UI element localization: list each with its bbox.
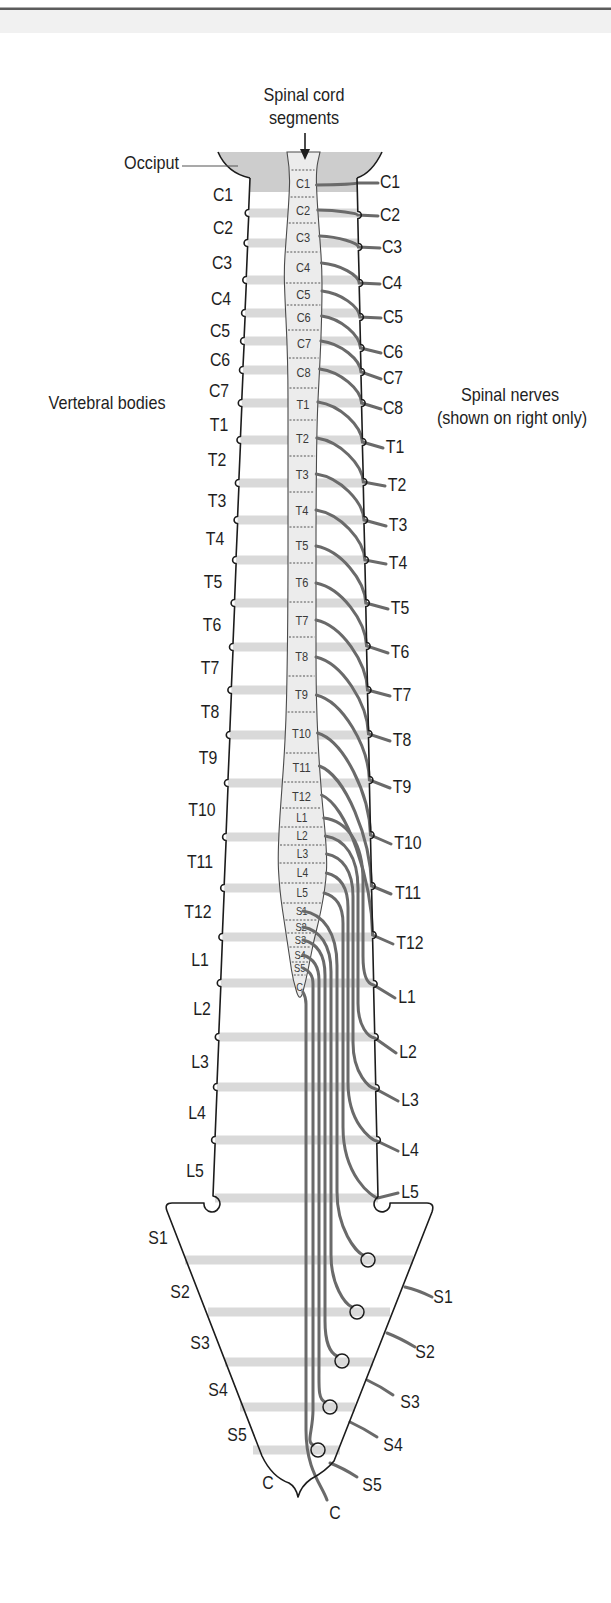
vertebral-body-label: T6 [203, 616, 221, 636]
sacral-fusion-band [225, 1358, 373, 1367]
cord-segment-label: T11 [292, 760, 310, 775]
spinal-nerve-label: C8 [383, 399, 403, 419]
vertebral-body-label: T1 [210, 416, 228, 436]
header-shade [0, 10, 611, 33]
cord-segment-label: T10 [292, 726, 311, 741]
cord-segment-label: T1 [296, 397, 309, 412]
cord-segment-label: T4 [296, 503, 309, 518]
cord-segment-label: L3 [297, 848, 308, 861]
vertebral-body-label: C4 [211, 290, 231, 310]
occiput-label: Occiput [124, 154, 179, 174]
cord-segment-label: C8 [297, 365, 311, 380]
sacral-vertebra-label: C [262, 1474, 273, 1494]
spinal-nerve-label: C1 [380, 173, 400, 193]
spinal-nerve-label: T7 [393, 686, 411, 706]
spinal-nerve-label: L4 [401, 1141, 419, 1161]
vertebral-body-label: C6 [210, 351, 230, 371]
spinal-nerve-label: C2 [380, 206, 400, 226]
sacral-fusion-band [215, 1194, 378, 1203]
spinal-nerve-label: C3 [382, 238, 402, 258]
vertebral-body-label: C3 [212, 254, 232, 274]
vertebral-body-label: L4 [188, 1104, 206, 1124]
cord-segment-label: L1 [296, 812, 307, 825]
spinal-nerves-label: Spinal nerves [461, 386, 559, 406]
spinal-nerve-label: T3 [389, 516, 407, 536]
sacral-ramus-s3 [367, 1380, 393, 1395]
vertebral-body-label: T10 [188, 801, 215, 821]
cord-segment-label: C7 [297, 336, 311, 351]
cord-segment-label: C6 [297, 310, 311, 325]
page-header-rule [0, 8, 611, 34]
sacral-ramus-s1 [405, 1287, 432, 1297]
spinal-nerve-label: S5 [362, 1476, 381, 1496]
vertebral-body-label: C5 [210, 322, 230, 342]
vertebral-body-label: L1 [191, 951, 209, 971]
cord-segment-label: T3 [296, 467, 309, 482]
spinal-nerve-c6 [322, 316, 381, 353]
cord-segment-label: T6 [296, 575, 309, 590]
sacral-ramus-s2 [387, 1333, 415, 1347]
sacral-vertebra-label: S1 [148, 1229, 167, 1249]
spinal-nerve-label: T10 [394, 834, 421, 854]
header-rule-line [0, 8, 611, 11]
spinal-nerves-note: (shown on right only) [437, 409, 587, 429]
vertebral-body-label: T7 [201, 659, 219, 679]
cord-segment-label: C2 [296, 203, 310, 218]
coccygeal-nerve [303, 992, 327, 1500]
cord-segment-label: T2 [296, 431, 309, 446]
sacral-ramus-s5 [330, 1463, 357, 1477]
sacral-fusion-band [253, 1446, 340, 1455]
spinal-nerve-label: C7 [383, 369, 403, 389]
vertebral-body-label: L5 [186, 1162, 204, 1182]
sacral-vertebra-label: S3 [190, 1334, 209, 1354]
vertebral-body-label: T11 [187, 853, 213, 873]
spinal-nerve-t7 [316, 620, 390, 696]
spinal-nerve-label: L5 [401, 1183, 419, 1203]
spinal-nerve-label: T8 [393, 731, 411, 751]
vertebral-body-label: T3 [208, 492, 226, 512]
vertebral-body-label: T5 [204, 573, 222, 593]
vertebral-body-label: L2 [193, 1000, 211, 1020]
spinal-nerve-label: S4 [383, 1436, 402, 1456]
cord-segment-label: L2 [296, 830, 307, 843]
sacral-vertebra-label: S4 [208, 1381, 227, 1401]
spinal-nerve-label: L1 [398, 988, 416, 1008]
cord-segment-label: T9 [295, 687, 308, 702]
cord-segment-label: T12 [292, 789, 311, 804]
vertebral-body-label: L3 [191, 1053, 209, 1073]
vertebral-body-label: T8 [201, 703, 219, 723]
cord-segment-label: T7 [295, 613, 308, 628]
vertebral-body-label: T9 [199, 749, 217, 769]
vertebral-body-label: C1 [213, 186, 233, 206]
figure-page: C1C2C3C4C5C6C7C8T1T2T3T4T5T6T7T8T9T10T11… [0, 0, 611, 1603]
vertebral-body-label: C2 [213, 219, 233, 239]
intervertebral-disc [219, 1033, 375, 1042]
spinal-nerve-label: L3 [401, 1091, 419, 1111]
spinal-nerve-label: C6 [383, 343, 403, 363]
cord-segment-label: L5 [297, 887, 308, 900]
sacral-ramus-s4 [350, 1422, 377, 1437]
spinal-nerve-label: T5 [391, 599, 409, 619]
spinal-nerve-label: S1 [433, 1288, 452, 1308]
spinal-nerve-label: S2 [415, 1343, 434, 1363]
spinal-nerve-label: T1 [386, 438, 404, 458]
sacral-vertebra-label: S2 [170, 1283, 189, 1303]
title-segments: segments [269, 109, 339, 129]
vertebral-body-label: T2 [208, 451, 226, 471]
cord-segment-label: T8 [295, 649, 308, 664]
cord-segment-label: C5 [296, 287, 310, 302]
spinal-nerve-label: C5 [383, 308, 403, 328]
cord-segment-label: L4 [297, 867, 308, 880]
cord-segment-label: C1 [296, 176, 310, 191]
intervertebral-disc [215, 1136, 377, 1145]
spinal-nerve-label: T9 [393, 778, 411, 798]
spinal-nerve-label: C [329, 1504, 340, 1524]
vertebral-bodies-label: Vertebral bodies [49, 394, 166, 414]
spinal-nerve-t10 [318, 733, 391, 844]
spinal-nerve-label: T12 [396, 934, 423, 954]
spinal-nerve-label: T2 [388, 476, 406, 496]
spinal-cord-diagram: C1C2C3C4C5C6C7C8T1T2T3T4T5T6T7T8T9T10T11… [0, 0, 611, 1603]
spinal-nerve-label: C4 [382, 274, 402, 294]
spinal-cord: C1C2C3C4C5C6C7C8T1T2T3T4T5T6T7T8T9T10T11… [278, 152, 326, 997]
vertebral-body-label: C7 [209, 382, 229, 402]
